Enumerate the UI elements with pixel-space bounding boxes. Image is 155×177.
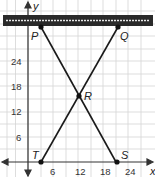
point-Q [115, 24, 120, 29]
x-tick: 6 [50, 166, 55, 177]
label-R: R [84, 90, 92, 102]
label-S: S [121, 149, 129, 161]
coordinate-diagram: P Q R T S y x 6 12 18 24 6 12 18 24 [0, 0, 155, 177]
label-P: P [31, 30, 39, 42]
x-tick: 18 [100, 166, 111, 177]
point-P [38, 24, 43, 29]
point-R [76, 93, 81, 98]
x-axis-label: x [149, 165, 155, 177]
x-tick: 24 [125, 166, 136, 177]
y-axis [25, 2, 31, 176]
x-axis [2, 159, 153, 165]
y-tick: 24 [11, 56, 22, 67]
y-tick: 12 [11, 106, 22, 117]
grid [0, 0, 155, 177]
top-bar [3, 15, 153, 26]
x-tick: 12 [75, 166, 86, 177]
point-S [114, 159, 119, 164]
y-tick: 18 [11, 81, 22, 92]
label-Q: Q [120, 30, 129, 42]
y-tick: 6 [16, 132, 21, 143]
label-T: T [32, 149, 40, 161]
point-T [38, 159, 43, 164]
y-axis-label: y [32, 0, 40, 12]
